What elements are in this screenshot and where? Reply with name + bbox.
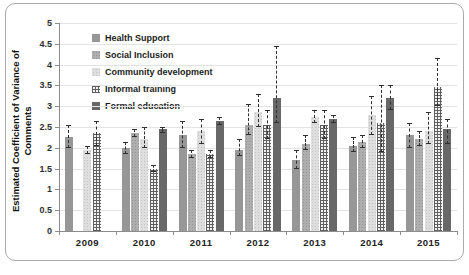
bar: [302, 144, 310, 231]
error-bar-cap-bottom: [369, 134, 374, 135]
bar: [65, 137, 73, 231]
dotted-light-gray-swatch: [92, 68, 100, 76]
error-bar: [331, 115, 336, 123]
bar: [131, 133, 139, 231]
error-bar-cap-top: [237, 139, 242, 140]
error-bar-cap-top: [407, 123, 412, 124]
error-bar-line: [96, 121, 97, 146]
error-bar-cap-bottom: [66, 147, 71, 148]
error-bar: [132, 129, 137, 137]
error-bar-cap-top: [417, 131, 422, 132]
bar: [292, 160, 300, 231]
error-bar-line: [239, 139, 240, 156]
error-bar: [445, 119, 450, 144]
error-bar: [303, 135, 308, 150]
error-bar-cap-bottom: [189, 157, 194, 158]
gridline: [59, 23, 457, 24]
error-bar-cap-bottom: [94, 145, 99, 146]
error-bar: [407, 123, 412, 148]
error-bar-cap-bottom: [388, 109, 393, 110]
error-bar-line: [381, 85, 382, 152]
y-tick-label: 5: [26, 18, 52, 28]
error-bar-line: [419, 131, 420, 146]
error-bar-line: [305, 135, 306, 150]
legend: Health SupportSocial InclusionCommunity …: [92, 29, 213, 114]
x-axis-tick: [400, 231, 401, 235]
y-tick-label: 0.5: [26, 205, 52, 215]
error-bar-cap-top: [256, 94, 261, 95]
error-bar-cap-top: [66, 125, 71, 126]
bar: [159, 129, 167, 231]
x-tick-label: 2012: [230, 237, 287, 248]
y-tick-label: 2.5: [26, 122, 52, 132]
error-bar-cap-bottom: [151, 171, 156, 172]
error-bar-cap-bottom: [379, 151, 384, 152]
error-bar-line: [409, 123, 410, 148]
error-bar-cap-top: [331, 115, 336, 116]
error-bar-line: [144, 127, 145, 148]
error-bar-line: [371, 96, 372, 136]
error-bar-cap-top: [199, 119, 204, 120]
bar: [188, 154, 196, 231]
solid-medium-gray-swatch: [92, 34, 100, 42]
x-axis-tick: [59, 231, 60, 235]
error-bar-cap-bottom: [246, 134, 251, 135]
x-axis-tick: [116, 231, 117, 235]
error-bar: [199, 119, 204, 144]
error-bar-cap-bottom: [265, 138, 270, 139]
legend-label: Health Support: [105, 33, 170, 43]
bar: [425, 131, 433, 231]
error-bar-line: [447, 119, 448, 144]
error-bar-cap-bottom: [160, 132, 165, 133]
error-bar: [66, 125, 71, 148]
error-bar-cap-bottom: [274, 122, 279, 123]
error-bar: [388, 85, 393, 110]
bar: [329, 119, 337, 231]
error-bar: [237, 139, 242, 156]
y-tick-label: 3.5: [26, 80, 52, 90]
error-bar-cap-top: [294, 150, 299, 151]
gridline: [59, 44, 457, 45]
error-bar-cap-bottom: [331, 122, 336, 123]
bar: [358, 142, 366, 231]
y-tick-label: 0: [26, 226, 52, 236]
error-bar-cap-top: [369, 96, 374, 97]
error-bar-cap-top: [322, 110, 327, 111]
y-tick-label: 3: [26, 101, 52, 111]
error-bar-line: [428, 112, 429, 143]
y-tick-label: 1: [26, 184, 52, 194]
x-tick-label: 2011: [173, 237, 230, 248]
error-bar-cap-bottom: [199, 143, 204, 144]
error-bar-cap-bottom: [351, 151, 356, 152]
error-bar: [351, 137, 356, 152]
error-bar: [217, 117, 222, 125]
y-tick-label: 1.5: [26, 164, 52, 174]
bar: [406, 135, 414, 231]
error-bar: [426, 112, 431, 143]
error-bar-cap-bottom: [435, 105, 440, 106]
error-bar-cap-top: [208, 150, 213, 151]
error-bar: [142, 127, 147, 148]
error-bar-cap-top: [303, 135, 308, 136]
error-bar-cap-bottom: [208, 157, 213, 158]
error-bar-cap-bottom: [217, 124, 222, 125]
error-bar: [360, 135, 365, 147]
bar: [122, 148, 130, 231]
error-bar-cap-bottom: [132, 136, 137, 137]
y-tick-label: 4: [26, 60, 52, 70]
x-axis-tick: [230, 231, 231, 235]
dotted-medium-gray-swatch: [92, 51, 100, 59]
error-bar: [85, 146, 90, 154]
error-bar-cap-top: [142, 127, 147, 128]
error-bar-cap-bottom: [407, 147, 412, 148]
error-bar: [294, 150, 299, 169]
error-bar-line: [248, 104, 249, 135]
error-bar-cap-top: [217, 117, 222, 118]
error-bar: [160, 127, 165, 133]
legend-label: Social Inclusion: [105, 50, 174, 60]
x-tick-label: 2015: [400, 237, 457, 248]
error-bar-cap-bottom: [417, 145, 422, 146]
error-bar-cap-top: [151, 165, 156, 166]
bar: [254, 112, 262, 231]
x-axis-tick: [173, 231, 174, 235]
